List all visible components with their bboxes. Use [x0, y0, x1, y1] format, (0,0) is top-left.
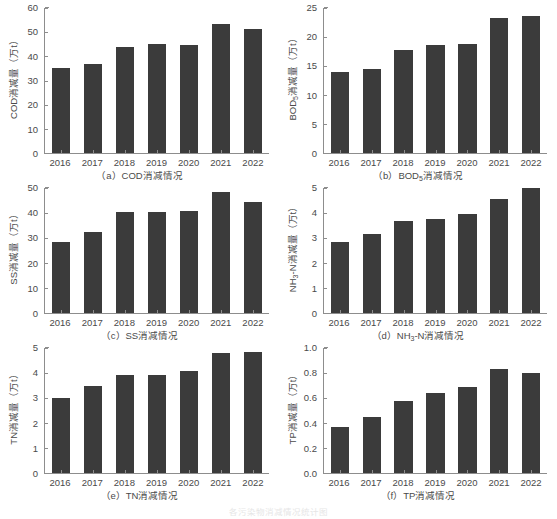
bar-slot: [356, 188, 388, 313]
bar-2017: [84, 64, 103, 153]
x-tick-label: 2020: [451, 158, 483, 168]
x-tick-mark: [340, 150, 341, 153]
x-tick-label: 2020: [173, 318, 205, 328]
bar-2018: [116, 212, 135, 313]
y-tick-label: 5: [312, 120, 317, 130]
bar-slot: [173, 188, 205, 313]
bar-slot: [109, 348, 141, 473]
x-tick-mark: [93, 470, 94, 473]
bar-slot: [388, 348, 420, 473]
bar-slot: [324, 8, 356, 153]
x-tick-mark: [61, 470, 62, 473]
x-tick-label: 2016: [323, 158, 355, 168]
x-tick-mark: [531, 470, 532, 473]
x-tick-mark: [372, 310, 373, 313]
x-tick-label: 2021: [483, 318, 515, 328]
figure-panel-grid: COD消减量（万t）010203040506020162017201820192…: [0, 0, 557, 500]
bar-slot: [420, 348, 452, 473]
panel-caption-c: （c）SS消减情况: [0, 331, 279, 341]
bar-2020: [180, 45, 199, 153]
bar-2019: [148, 212, 167, 313]
y-tick-label: 40: [27, 208, 38, 218]
plot-area-e: 012345: [22, 348, 269, 474]
x-tick-mark: [404, 150, 405, 153]
bar-slot: [451, 188, 483, 313]
x-tick-label: 2017: [355, 158, 387, 168]
bar-2021: [212, 24, 231, 153]
bar-2018: [394, 50, 412, 153]
y-tick-label: 0.6: [304, 394, 317, 404]
y-tick-label: 3: [312, 234, 317, 244]
bar-2020: [458, 387, 476, 473]
x-tick-label: 2020: [173, 478, 205, 488]
y-axis-label-a: COD消减量（万t）: [6, 0, 20, 154]
x-tick-label: 2019: [419, 318, 451, 328]
y-tick-label: 15: [306, 62, 317, 72]
x-tick-label: 2018: [108, 158, 140, 168]
panel-caption-e: （e）TN消减情况: [0, 491, 279, 501]
x-tick-mark: [157, 310, 158, 313]
x-tick-label: 2022: [237, 318, 269, 328]
y-tick-labels-f: 0.00.20.40.60.81.0: [301, 348, 321, 474]
y-tick-label: 60: [27, 3, 38, 13]
bar-slot: [356, 8, 388, 153]
x-tick-mark: [436, 150, 437, 153]
axes-f: [323, 348, 547, 474]
bar-slot: [173, 348, 205, 473]
bar-2018: [394, 401, 412, 474]
chart-panel-b: BOD5消减量（万t）05101520252016201720182019202…: [279, 0, 557, 180]
x-tick-label: 2018: [387, 478, 419, 488]
x-tick-mark: [499, 150, 500, 153]
bar-slot: [515, 348, 547, 473]
bar-2017: [363, 69, 381, 153]
x-tick-label: 2020: [451, 318, 483, 328]
bar-slot: [77, 8, 109, 153]
x-tick-label: 2016: [323, 478, 355, 488]
x-tick-mark: [436, 470, 437, 473]
x-tick-labels-c: 2016201720182019202020212022: [44, 318, 269, 328]
x-tick-mark: [253, 310, 254, 313]
figure-caption: 各污染物消减情况统计图: [0, 505, 557, 517]
y-axis-label-b: BOD5消减量（万t）: [285, 0, 299, 154]
plot-area-a: 0102030405060: [22, 8, 269, 154]
bar-slot: [45, 188, 77, 313]
y-tick-label: 40: [27, 52, 38, 62]
x-tick-mark: [189, 470, 190, 473]
y-tick-label: 10: [27, 125, 38, 135]
y-axis-label-c: SS消减量（万t）: [6, 180, 20, 314]
x-tick-mark: [189, 150, 190, 153]
x-tick-mark: [531, 150, 532, 153]
y-tick-label: 0: [33, 469, 38, 479]
bar-slot: [141, 188, 173, 313]
x-tick-mark: [499, 310, 500, 313]
x-tick-label: 2016: [44, 158, 76, 168]
bar-series-e: [45, 348, 269, 473]
y-tick-labels-d: 012345: [301, 188, 321, 314]
bar-2022: [244, 202, 263, 313]
y-tick-label: 0.2: [304, 444, 317, 454]
bar-slot: [237, 348, 269, 473]
bar-slot: [324, 188, 356, 313]
chart-panel-a: COD消减量（万t）010203040506020162017201820192…: [0, 0, 279, 180]
y-tick-mark: [45, 153, 48, 154]
x-tick-label: 2021: [205, 158, 237, 168]
x-tick-mark: [221, 310, 222, 313]
bar-slot: [205, 188, 237, 313]
x-tick-label: 2018: [108, 318, 140, 328]
x-tick-label: 2022: [237, 478, 269, 488]
y-tick-label: 0.8: [304, 368, 317, 378]
y-tick-label: 30: [27, 234, 38, 244]
x-tick-mark: [531, 310, 532, 313]
x-tick-label: 2021: [483, 158, 515, 168]
bar-2021: [212, 353, 231, 473]
bar-series-c: [45, 188, 269, 313]
y-tick-mark: [324, 153, 327, 154]
bar-slot: [420, 188, 452, 313]
x-tick-label: 2020: [173, 158, 205, 168]
bar-slot: [205, 8, 237, 153]
bar-2019: [148, 44, 167, 153]
bar-2022: [522, 16, 540, 153]
bar-slot: [109, 188, 141, 313]
plot-area-b: 0510152025: [301, 8, 547, 154]
bar-slot: [45, 348, 77, 473]
